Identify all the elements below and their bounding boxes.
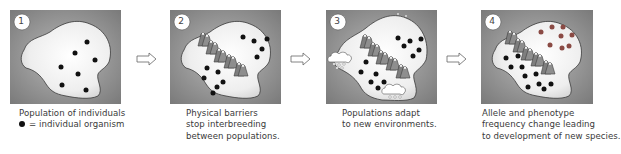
- step-4-number: 4: [485, 14, 499, 28]
- legend: = individual organism: [19, 119, 125, 130]
- step-3-caption: Populations adapt to new environments.: [342, 108, 437, 131]
- right-arrow-outline-icon: [290, 52, 312, 66]
- step-1-caption: Population of individuals = individual o…: [19, 108, 125, 131]
- organism-dot-icon: [19, 121, 25, 127]
- step-1-number: 1: [14, 14, 28, 28]
- right-arrow-outline-icon: [446, 52, 468, 66]
- step-2-caption: Physical barriers stop interbreeding bet…: [186, 108, 280, 142]
- right-arrow-outline-icon: [136, 52, 158, 66]
- step-2-number: 2: [174, 14, 188, 28]
- step-3-number: 3: [330, 14, 344, 28]
- step-4-caption: Allele and phenotype frequency change le…: [482, 108, 621, 142]
